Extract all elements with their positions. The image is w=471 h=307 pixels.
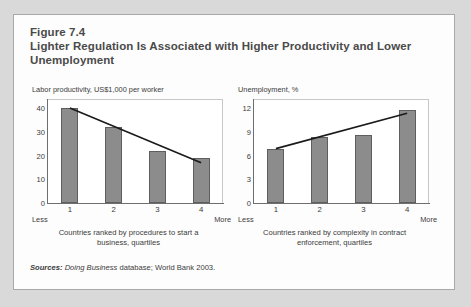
page-title: Lighter Regulation Is Associated with Hi… [30, 39, 442, 67]
x-tick-label: 3 [361, 205, 365, 214]
bar [399, 110, 416, 203]
bar-series-left [48, 99, 223, 203]
sources-publication: Doing Business [65, 263, 118, 272]
bar [193, 158, 210, 203]
axis-endcaps-right: Less More [254, 215, 429, 227]
chart-labor-productivity: Labor productivity, US$1,000 per worker … [26, 85, 238, 263]
axis-start-label-right: Less [238, 215, 254, 224]
x-axis-line-left [47, 203, 224, 204]
chart-caption-left: Countries ranked by procedures to start … [26, 228, 231, 247]
axis-end-label-left: More [214, 215, 231, 224]
y-tick-label: 12 [243, 104, 251, 113]
chart-unemployment: Unemployment, % 036912 1234 Less More Co… [232, 85, 444, 263]
caption-line-2: business, quartiles [97, 238, 160, 247]
figure-panel: Figure 7.4 Lighter Regulation Is Associa… [13, 14, 455, 290]
x-tick-label: 1 [68, 205, 72, 214]
charts-row: Labor productivity, US$1,000 per worker … [14, 85, 456, 263]
figure-number: Figure 7.4 [30, 25, 442, 39]
axis-start-label-left: Less [32, 215, 48, 224]
y-tick-label: 10 [37, 175, 45, 184]
bar-series-right [254, 99, 429, 203]
y-tick-label: 0 [247, 199, 251, 208]
divider [14, 255, 456, 256]
x-tick-label: 3 [155, 205, 159, 214]
bar [355, 135, 372, 203]
caption-line-1: Countries ranked by procedures to start … [59, 228, 199, 237]
chart-axis-label-right: Unemployment, % [238, 85, 298, 94]
y-tick-label: 40 [37, 104, 45, 113]
caption-line-1: Countries ranked by complexity in contra… [263, 228, 406, 237]
title-block: Figure 7.4 Lighter Regulation Is Associa… [30, 25, 442, 67]
y-tick-label: 20 [37, 151, 45, 160]
bar [311, 137, 328, 203]
x-axis-line-right [253, 203, 430, 204]
y-tick-label: 30 [37, 128, 45, 137]
bar [149, 151, 166, 203]
bar [105, 127, 122, 203]
chart-caption-right: Countries ranked by complexity in contra… [232, 228, 437, 247]
axis-endcaps-left: Less More [48, 215, 223, 227]
x-tick-label: 2 [317, 205, 321, 214]
y-tick-label: 9 [247, 128, 251, 137]
x-tick-label: 2 [111, 205, 115, 214]
y-tick-label: 3 [247, 175, 251, 184]
sources-label: Sources: [30, 263, 63, 272]
bar [267, 149, 284, 203]
x-tick-label: 4 [405, 205, 409, 214]
x-tick-label: 1 [274, 205, 278, 214]
sources-note: Sources: Doing Business database; World … [30, 263, 215, 272]
caption-line-2: enforcement, quartiles [297, 238, 372, 247]
sources-rest: database; World Bank 2003. [117, 263, 215, 272]
bar [61, 108, 78, 203]
x-tick-label: 4 [199, 205, 203, 214]
y-tick-label: 6 [247, 151, 251, 160]
y-tick-label: 0 [41, 199, 45, 208]
chart-axis-label-left: Labor productivity, US$1,000 per worker [32, 85, 164, 94]
axis-end-label-right: More [420, 215, 437, 224]
